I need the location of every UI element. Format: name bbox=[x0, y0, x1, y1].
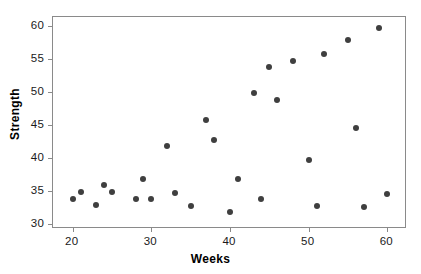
data-point bbox=[227, 209, 233, 215]
x-axis-tick-label: 30 bbox=[144, 235, 157, 247]
y-axis-tick-label: 35 bbox=[31, 184, 44, 196]
y-axis-tick bbox=[48, 158, 53, 159]
y-axis-tick-label: 45 bbox=[31, 118, 44, 130]
y-axis-tick bbox=[48, 224, 53, 225]
data-point bbox=[109, 189, 115, 195]
data-point bbox=[251, 90, 257, 96]
data-point bbox=[101, 182, 107, 188]
x-axis-tick bbox=[387, 227, 388, 232]
data-point bbox=[78, 189, 84, 195]
y-axis-tick-label: 55 bbox=[31, 52, 44, 64]
data-point bbox=[235, 176, 241, 182]
y-axis-tick bbox=[48, 191, 53, 192]
y-axis-title: Strength bbox=[8, 54, 22, 174]
data-point bbox=[314, 203, 320, 209]
y-axis-tick bbox=[48, 92, 53, 93]
data-point bbox=[306, 157, 312, 163]
y-axis-tick-label: 60 bbox=[31, 19, 44, 31]
y-axis-tick-label: 30 bbox=[31, 217, 44, 229]
x-axis-tick bbox=[151, 227, 152, 232]
data-point bbox=[211, 137, 217, 143]
y-axis-tick bbox=[48, 59, 53, 60]
data-point bbox=[258, 196, 264, 202]
x-axis-title: Weeks bbox=[0, 252, 421, 266]
data-point bbox=[164, 143, 170, 149]
data-point bbox=[376, 25, 382, 31]
data-point bbox=[93, 202, 99, 208]
data-point bbox=[133, 196, 139, 202]
x-axis-tick-label: 40 bbox=[222, 235, 235, 247]
x-axis-tick bbox=[73, 227, 74, 232]
plot-area bbox=[53, 17, 405, 227]
data-point bbox=[361, 204, 367, 210]
x-axis-tick bbox=[230, 227, 231, 232]
y-axis-tick-label: 50 bbox=[31, 85, 44, 97]
x-axis-tick bbox=[309, 227, 310, 232]
x-axis-tick-label: 20 bbox=[65, 235, 78, 247]
data-point bbox=[266, 64, 272, 70]
data-point bbox=[70, 196, 76, 202]
plot-frame bbox=[52, 16, 406, 228]
data-point bbox=[345, 37, 351, 43]
data-point bbox=[384, 191, 390, 197]
data-point bbox=[274, 97, 280, 103]
data-point bbox=[321, 51, 327, 57]
y-axis-tick bbox=[48, 26, 53, 27]
data-point bbox=[148, 196, 154, 202]
data-point bbox=[172, 190, 178, 196]
scatter-plot-figure: 30354045505560 2030405060 Weeks Strength bbox=[0, 0, 421, 274]
data-point bbox=[140, 176, 146, 182]
x-axis-tick-label: 50 bbox=[301, 235, 314, 247]
data-point bbox=[203, 117, 209, 123]
x-axis-tick-label: 60 bbox=[380, 235, 393, 247]
data-point bbox=[353, 125, 359, 131]
data-point bbox=[188, 203, 194, 209]
y-axis-tick-labels: 30354045505560 bbox=[0, 16, 44, 228]
data-point bbox=[290, 58, 296, 64]
y-axis-tick bbox=[48, 125, 53, 126]
y-axis-tick-label: 40 bbox=[31, 151, 44, 163]
x-axis-tick-labels: 2030405060 bbox=[52, 235, 406, 251]
